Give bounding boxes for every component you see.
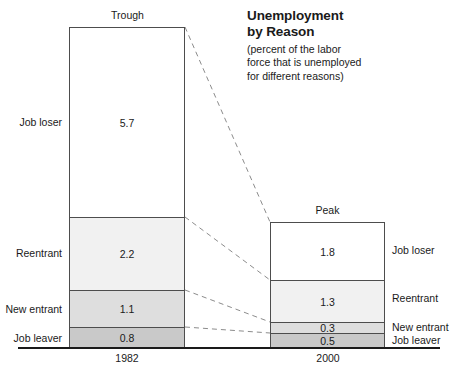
bar-1-label-reentrant: Reentrant [0,247,62,259]
title-block: Unemployment by Reason (percent of the l… [247,8,452,83]
chart-title-line-1: Unemployment [247,8,452,24]
bar-1-value-job-leaver: 0.8 [120,332,135,344]
chart-subtitle-line-2: force that is unemployed [247,56,452,69]
bar-2-axis-label: 2000 [280,352,376,364]
bar-2-segment-job-loser[interactable]: 1.8 [271,223,384,280]
chart-subtitle-line-3: for different reasons) [247,70,452,83]
bar-1-segment-new-entrant[interactable]: 1.1 [70,291,184,327]
bar-2-label-job-loser: Job loser [392,244,459,256]
x-axis-baseline [18,347,440,349]
bar-1-caption: Trough [80,9,175,21]
stacked-bar-1982[interactable]: 5.7 2.2 1.1 0.8 [69,27,185,347]
bar-2-label-new-entrant: New entrant [392,321,459,333]
page-title: Unemployment by Reason [247,8,452,41]
bar-1-axis-label: 1982 [79,352,175,364]
bar-1-value-reentrant: 2.2 [120,248,135,260]
bar-2-segment-reentrant[interactable]: 1.3 [271,281,384,322]
bar-1-value-new-entrant: 1.1 [120,303,135,315]
bar-2-caption: Peak [280,204,375,216]
bar-2-label-job-leaver: Job leaver [392,334,459,346]
bar-2-value-reentrant: 1.3 [320,296,335,308]
stacked-bar-2000[interactable]: 1.8 1.3 0.3 0.5 [270,222,385,347]
chart-title-line-2: by Reason [247,24,452,40]
unemployment-by-reason-chart: Unemployment by Reason (percent of the l… [0,0,459,377]
bar-1-segment-job-leaver[interactable]: 0.8 [70,328,184,348]
bar-2-segment-new-entrant[interactable]: 0.3 [271,323,384,333]
chart-subtitle: (percent of the labor force that is unem… [247,43,452,83]
bar-2-value-job-leaver: 0.5 [320,335,335,347]
connector-new-entrant [185,327,270,333]
connector-job-loser [185,217,270,280]
connector-reentrant [185,290,270,322]
bar-1-value-job-loser: 5.7 [120,117,135,129]
bar-1-segment-job-loser[interactable]: 5.7 [70,28,184,217]
bar-2-value-job-loser: 1.8 [320,246,335,258]
bar-1-label-job-loser: Job loser [0,116,62,128]
bar-1-segment-reentrant[interactable]: 2.2 [70,218,184,290]
bar-2-segment-job-leaver[interactable]: 0.5 [271,334,384,348]
bar-1-label-new-entrant: New entrant [0,303,62,315]
bar-2-label-reentrant: Reentrant [392,292,459,304]
bar-1-label-job-leaver: Job leaver [0,332,62,344]
chart-subtitle-line-1: (percent of the labor [247,43,452,56]
